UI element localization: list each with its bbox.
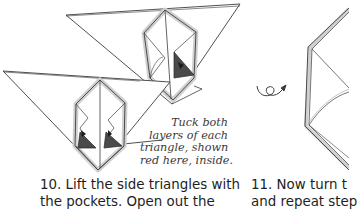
- note-line: Tuck both: [140, 117, 228, 130]
- note-line: red here, inside.: [140, 155, 228, 168]
- turn-over-icon: [257, 85, 286, 96]
- caption-line: 10. Lift the side triangles with: [40, 176, 240, 193]
- note-line: triangle, shown: [140, 142, 228, 155]
- caption-line: the pockets. Open out the: [40, 193, 240, 210]
- step-11-caption: 11. Now turn t and repeat step: [251, 176, 357, 210]
- tuck-instruction-note: Tuck both layers of each triangle, shown…: [140, 117, 228, 167]
- step11-model: [305, 8, 349, 170]
- step-10-caption: 10. Lift the side triangles with the poc…: [40, 176, 240, 210]
- caption-line: and repeat step: [251, 193, 357, 210]
- caption-line: 11. Now turn t: [251, 176, 357, 193]
